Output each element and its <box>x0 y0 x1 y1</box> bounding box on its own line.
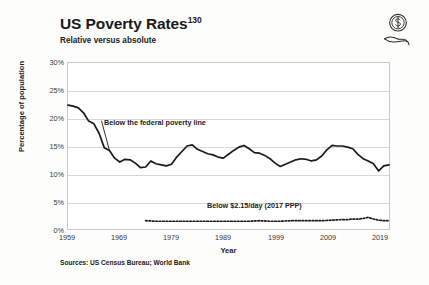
y-tick-2: 10% <box>24 170 64 179</box>
y-axis-ticks: 0% 5% 10% 15% 20% 25% 30% <box>20 62 64 230</box>
page-title-text: US Poverty Rates <box>60 15 188 32</box>
x-tick-2009: 2009 <box>320 233 336 242</box>
annotation-extreme-poverty: Below $2.15/day (2017 PPP) <box>207 201 302 210</box>
annotation-federal-poverty-line: Below the federal poverty line <box>104 118 206 127</box>
x-tick-2019: 2019 <box>372 233 388 242</box>
x-tick-1979: 1979 <box>163 233 179 242</box>
y-tick-5: 25% <box>24 86 64 95</box>
x-tick-1989: 1989 <box>215 233 231 242</box>
x-axis-ticks: 1959 1969 1979 1989 1999 2009 2019 <box>67 233 390 245</box>
y-tick-6: 30% <box>24 58 64 67</box>
series-federal-poverty-line <box>68 105 389 171</box>
page-title: US Poverty Rates130 <box>60 15 202 33</box>
x-tick-1999: 1999 <box>268 233 284 242</box>
page-subtitle: Relative versus absolute <box>60 36 156 45</box>
series-extreme-poverty <box>146 217 389 221</box>
x-tick-1959: 1959 <box>59 233 75 242</box>
x-tick-1969: 1969 <box>111 233 127 242</box>
y-axis-title: Percentage of population <box>17 42 26 172</box>
x-axis-title: Year <box>67 246 390 255</box>
hand-holding-coin-icon <box>378 11 418 51</box>
chart-page: US Poverty Rates130 Relative versus abso… <box>0 0 429 285</box>
source-note: Sources: US Census Bureau; World Bank <box>60 259 190 266</box>
y-tick-1: 5% <box>24 198 64 207</box>
page-title-superscript: 130 <box>188 15 202 25</box>
y-tick-3: 15% <box>24 142 64 151</box>
y-tick-4: 20% <box>24 114 64 123</box>
